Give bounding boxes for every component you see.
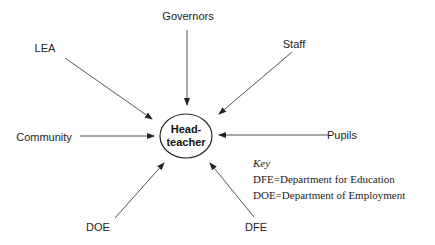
key-entry-doe: DOE=Department of Employment (253, 187, 405, 203)
arrow-doe (115, 163, 164, 218)
arrow-staff (219, 52, 292, 114)
key-legend: Key DFE=Department for Education DOE=Dep… (253, 155, 405, 203)
headteacher-node: Head- teacher (166, 123, 205, 149)
node-lea: LEA (35, 42, 56, 54)
headteacher-label-line2: teacher (166, 136, 205, 149)
node-community: Community (16, 131, 72, 143)
node-pupils: Pupils (327, 129, 357, 141)
key-entry-dfe: DFE=Department for Education (253, 171, 405, 187)
diagram-canvas (0, 0, 435, 245)
node-doe: DOE (86, 221, 110, 233)
key-title: Key (253, 155, 405, 171)
arrow-dfe (210, 163, 254, 217)
node-governors: Governors (162, 10, 213, 22)
node-dfe: DFE (245, 221, 267, 233)
arrow-lea (65, 58, 152, 119)
node-staff: Staff (283, 38, 305, 50)
headteacher-label-line1: Head- (166, 123, 205, 136)
